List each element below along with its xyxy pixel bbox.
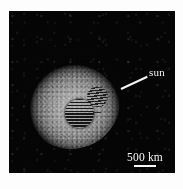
sun-direction-arrow: [121, 76, 148, 90]
sun-direction-label: sun: [149, 67, 165, 78]
scale-label: 500 km: [120, 151, 170, 163]
figure-container: sun 500 km: [0, 0, 183, 189]
nucleus-region: [65, 99, 94, 128]
image-panel: sun 500 km: [9, 11, 175, 173]
scale-bar: [134, 165, 156, 167]
scale-annotation: 500 km: [120, 151, 170, 167]
nucleus-spike-marker: [93, 112, 101, 113]
